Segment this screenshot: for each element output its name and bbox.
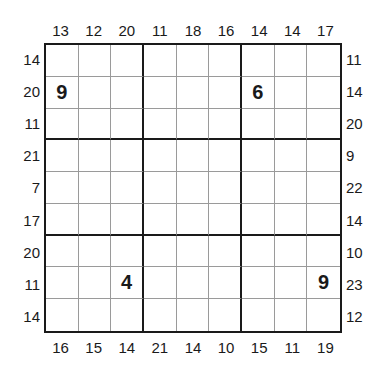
grid-cell[interactable] [144, 204, 177, 236]
grid-cell[interactable] [111, 236, 144, 268]
grid-cell[interactable] [79, 204, 112, 236]
grid-cell[interactable] [79, 109, 112, 141]
grid-cell[interactable] [307, 109, 340, 141]
grid-cell[interactable] [177, 236, 210, 268]
grid-cell[interactable] [209, 45, 242, 77]
grid-cell[interactable] [275, 109, 308, 141]
left-clues: 14 20 11 21 7 17 20 11 14 [14, 43, 40, 333]
grid-cell[interactable] [144, 45, 177, 77]
grid-cell[interactable] [177, 299, 210, 331]
grid-cell[interactable] [275, 267, 308, 299]
grid-cell[interactable] [144, 172, 177, 204]
grid-cell[interactable] [209, 109, 242, 141]
grid-cell[interactable] [209, 140, 242, 172]
grid-cell[interactable] [209, 267, 242, 299]
right-clue: 22 [346, 172, 372, 204]
grid-cell[interactable] [242, 267, 275, 299]
grid-cell[interactable] [79, 77, 112, 109]
grid-cell[interactable] [177, 267, 210, 299]
grid-cell[interactable] [242, 172, 275, 204]
top-clue: 13 [44, 22, 77, 39]
grid-cell[interactable] [111, 204, 144, 236]
grid-cell[interactable] [144, 267, 177, 299]
grid-cell[interactable] [111, 109, 144, 141]
grid-cell[interactable] [242, 236, 275, 268]
right-clue: 9 [346, 140, 372, 172]
grid-cell[interactable] [79, 299, 112, 331]
right-clue: 12 [346, 301, 372, 333]
bottom-clue: 14 [110, 339, 143, 356]
grid-cell[interactable] [79, 140, 112, 172]
grid-cell[interactable] [79, 267, 112, 299]
left-clue: 11 [14, 107, 40, 139]
grid-cell[interactable] [275, 204, 308, 236]
bottom-clue: 21 [143, 339, 176, 356]
grid-cell[interactable]: 4 [111, 267, 144, 299]
grid-cell[interactable] [144, 236, 177, 268]
grid-cell[interactable] [144, 109, 177, 141]
top-clue: 20 [110, 22, 143, 39]
grid-cell[interactable] [79, 236, 112, 268]
grid-cell[interactable] [46, 109, 79, 141]
grid-cell[interactable] [46, 172, 79, 204]
top-clue: 16 [210, 22, 243, 39]
grid-cell[interactable] [79, 45, 112, 77]
right-clue: 20 [346, 107, 372, 139]
grid-cell[interactable] [111, 140, 144, 172]
grid-cell[interactable] [144, 140, 177, 172]
grid-cell[interactable] [275, 236, 308, 268]
grid-cell[interactable] [242, 140, 275, 172]
bottom-clue: 15 [243, 339, 276, 356]
top-clue: 14 [243, 22, 276, 39]
top-clues: 13 12 20 11 18 16 14 14 17 [44, 22, 342, 39]
grid-cell[interactable] [46, 140, 79, 172]
grid-cell[interactable] [111, 172, 144, 204]
grid-cell[interactable] [46, 299, 79, 331]
grid-cell[interactable] [111, 45, 144, 77]
grid-cell[interactable] [275, 140, 308, 172]
grid-cell[interactable] [177, 204, 210, 236]
grid-cell[interactable] [307, 204, 340, 236]
grid-cell[interactable]: 9 [46, 77, 79, 109]
grid-cell[interactable] [275, 172, 308, 204]
right-clue: 11 [346, 43, 372, 75]
grid-cell[interactable] [242, 109, 275, 141]
grid-cell[interactable] [209, 172, 242, 204]
grid-cell[interactable] [46, 267, 79, 299]
grid-cell[interactable] [144, 77, 177, 109]
grid-cell[interactable] [111, 299, 144, 331]
grid-cell[interactable] [307, 45, 340, 77]
grid-cell[interactable] [177, 140, 210, 172]
grid-cell[interactable] [275, 77, 308, 109]
grid-cell[interactable] [307, 172, 340, 204]
grid-cell[interactable]: 6 [242, 77, 275, 109]
grid-cell[interactable] [46, 204, 79, 236]
grid-cell[interactable] [79, 172, 112, 204]
grid-cell[interactable] [275, 45, 308, 77]
left-clue: 7 [14, 172, 40, 204]
grid-cell[interactable]: 9 [307, 267, 340, 299]
grid-cell[interactable] [209, 236, 242, 268]
grid-cell[interactable] [177, 172, 210, 204]
grid-cell[interactable] [242, 204, 275, 236]
grid-cell[interactable] [209, 204, 242, 236]
grid-cell[interactable] [307, 77, 340, 109]
sudoku-grid: 9649 [44, 43, 342, 333]
grid-cell[interactable] [209, 77, 242, 109]
bottom-clues: 16 15 14 21 14 10 15 11 19 [44, 339, 342, 356]
grid-cell[interactable] [209, 299, 242, 331]
grid-cell[interactable] [177, 109, 210, 141]
right-clue: 14 [346, 204, 372, 236]
grid-cell[interactable] [177, 45, 210, 77]
grid-cell[interactable] [307, 236, 340, 268]
grid-cell[interactable] [242, 45, 275, 77]
grid-cell[interactable] [144, 299, 177, 331]
grid-cell[interactable] [242, 299, 275, 331]
grid-cell[interactable] [307, 140, 340, 172]
grid-cell[interactable] [46, 236, 79, 268]
grid-cell[interactable] [46, 45, 79, 77]
grid-cell[interactable] [177, 77, 210, 109]
grid-cell[interactable] [275, 299, 308, 331]
grid-cell[interactable] [307, 299, 340, 331]
grid-cell[interactable] [111, 77, 144, 109]
